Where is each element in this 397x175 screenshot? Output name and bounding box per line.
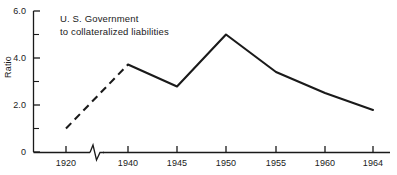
x-tick-label-1945: 1945 [157,158,197,168]
axis-break-zigzag-icon [90,145,104,160]
y-tick-label-4: 4.0 [0,53,26,63]
x-tick-label-1960: 1960 [305,158,345,168]
y-tick-label-6: 6.0 [0,6,26,16]
line-chart: Ratio 6.0 4.0 2.0 0 1920 1940 1945 1950 … [0,0,397,175]
x-tick-label-1940: 1940 [108,158,148,168]
data-line-dashed-segment [66,65,128,129]
y-tick-label-0: 0 [0,147,26,157]
x-tick-label-1955: 1955 [256,158,296,168]
y-axis-title: Ratio [3,42,13,92]
series-annotation-line-1: U. S. Government [60,12,169,25]
series-annotation-line-2: to collateralized liabilities [60,25,169,38]
y-minor-ticks [34,35,40,129]
y-tick-label-2: 2.0 [0,100,26,110]
series-annotation: U. S. Government to collateralized liabi… [60,12,169,38]
x-tick-label-1920: 1920 [46,158,86,168]
x-ticks [66,146,373,153]
x-tick-label-1950: 1950 [206,158,246,168]
x-tick-label-1964: 1964 [353,158,393,168]
data-line-solid-segment [128,35,373,111]
